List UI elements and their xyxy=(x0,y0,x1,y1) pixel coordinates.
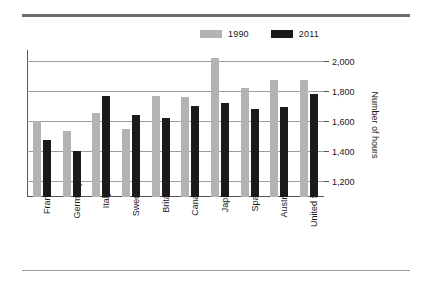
y-axis-tick-label: 1,600 xyxy=(332,117,355,127)
x-axis-label-cell: Sweden xyxy=(116,198,146,268)
bar-1990 xyxy=(33,121,41,197)
bar-1990 xyxy=(300,80,308,197)
bar-group xyxy=(265,50,295,197)
bar-group xyxy=(57,50,87,197)
y-axis-tick xyxy=(324,61,329,62)
chart-page: { "legend": { "items": [ { "label": "199… xyxy=(0,0,427,285)
x-axis-label: Canada xyxy=(190,184,200,216)
x-axis-label-cell: Japan xyxy=(205,198,235,268)
x-axis-category-labels: FranceGermanyItalySwedenBritainCanadaJap… xyxy=(27,198,324,268)
x-axis-label-cell: Germany xyxy=(57,198,87,268)
legend-swatch-icon xyxy=(271,30,293,38)
y-axis-tick-label: 1,800 xyxy=(332,87,355,97)
x-axis-label: Australia xyxy=(279,182,289,217)
y-axis-tick xyxy=(324,91,329,92)
bar-1990 xyxy=(152,96,160,197)
bar-1990 xyxy=(270,80,278,197)
y-axis-tick-label: 2,000 xyxy=(332,57,355,67)
legend-item: 2011 xyxy=(271,29,319,39)
bar-1990 xyxy=(241,88,249,198)
x-axis-label: Germany xyxy=(72,181,82,218)
bar-group xyxy=(205,50,235,197)
bar-2011 xyxy=(221,103,229,197)
bar-1990 xyxy=(63,131,71,197)
legend-swatch-icon xyxy=(200,30,222,38)
legend-item: 1990 xyxy=(200,29,249,39)
legend-label: 1990 xyxy=(228,29,249,39)
x-axis-label-cell: Australia xyxy=(265,198,295,268)
x-axis-label: France xyxy=(42,186,52,214)
x-axis-label: Spain xyxy=(250,188,260,211)
x-axis-label: Britain xyxy=(161,187,171,213)
bar-2011 xyxy=(162,118,170,197)
bar-group xyxy=(176,50,206,197)
top-rule xyxy=(22,14,410,17)
y-axis-tick-label: 1,200 xyxy=(332,177,355,187)
bar-group xyxy=(116,50,146,197)
bar-group xyxy=(86,50,116,197)
x-axis-label: United States xyxy=(309,173,319,227)
bar-1990 xyxy=(181,97,189,198)
bottom-rule xyxy=(22,270,410,271)
bar-1990 xyxy=(92,113,100,197)
legend-label: 2011 xyxy=(299,29,319,39)
chart-legend: 19902011 xyxy=(200,27,380,41)
y-axis-title-text: Number of hours xyxy=(370,91,380,158)
y-axis-tick-label: 1,400 xyxy=(332,147,355,157)
x-axis-label-cell: Britain xyxy=(146,198,176,268)
x-axis-label-cell: United States xyxy=(294,198,324,268)
y-axis-title: Number of hours xyxy=(368,60,382,190)
x-axis-label-cell: Spain xyxy=(235,198,265,268)
y-axis-tick xyxy=(324,181,329,182)
bar-group xyxy=(146,50,176,197)
x-axis-label: Japan xyxy=(220,188,230,213)
x-axis-label: Italy xyxy=(101,192,111,209)
bar-1990 xyxy=(211,58,219,198)
bar-group xyxy=(27,50,57,197)
x-axis-label-cell: Canada xyxy=(176,198,206,268)
bar-groups xyxy=(27,50,324,197)
plot-area xyxy=(27,50,324,197)
bar-2011 xyxy=(251,109,259,198)
bar-group xyxy=(235,50,265,197)
x-axis-label-cell: Italy xyxy=(86,198,116,268)
bar-1990 xyxy=(122,129,130,197)
x-axis-label: Sweden xyxy=(131,184,141,217)
y-axis-tick xyxy=(324,121,329,122)
bar-2011 xyxy=(102,96,110,197)
x-axis-label-cell: France xyxy=(27,198,57,268)
y-axis-tick xyxy=(324,151,329,152)
